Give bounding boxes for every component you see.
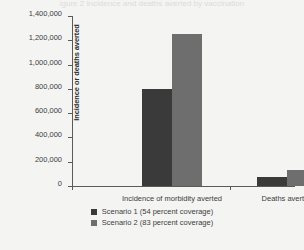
y-tick: 800,000 <box>0 89 72 90</box>
bar <box>257 177 287 186</box>
y-axis-title: Incidence or deaths averted <box>72 13 81 133</box>
y-tick-mark <box>68 89 72 90</box>
chart-legend: Scenario 1 (54 percent coverage)Scenario… <box>0 206 304 228</box>
y-tick-mark <box>68 65 72 66</box>
y-tick-mark <box>68 113 72 114</box>
y-tick-mark <box>68 137 72 138</box>
x-axis-line <box>72 186 295 187</box>
figure-container: igure 2 Incidence and deaths averted by … <box>0 0 304 250</box>
legend-label: Scenario 1 (54 percent coverage) <box>102 207 213 216</box>
y-tick: 0 <box>0 186 72 187</box>
legend-label: Scenario 2 (83 percent coverage) <box>102 218 213 227</box>
x-tick-mark <box>230 186 231 190</box>
y-tick-mark <box>68 40 72 41</box>
y-tick-label: 1,200,000 <box>29 34 62 42</box>
y-tick: 1,400,000 <box>0 16 72 17</box>
y-tick-label: 200,000 <box>35 156 62 164</box>
y-tick: 600,000 <box>0 113 72 114</box>
y-tick-mark <box>68 16 72 17</box>
y-tick-label: 400,000 <box>35 131 62 139</box>
legend-item[interactable]: Scenario 2 (83 percent coverage) <box>0 217 304 228</box>
x-axis-category-label: Deaths averted <box>217 194 304 203</box>
y-tick: 1,000,000 <box>0 65 72 66</box>
bar <box>287 170 304 186</box>
legend-swatch-icon <box>91 220 97 226</box>
y-tick-label: 1,400,000 <box>29 10 62 18</box>
legend-item[interactable]: Scenario 1 (54 percent coverage) <box>0 206 304 217</box>
y-tick-label: 0 <box>58 180 62 188</box>
y-tick-label: 800,000 <box>35 83 62 91</box>
bar <box>172 34 202 186</box>
x-tick-mark <box>72 186 73 190</box>
bar <box>142 89 172 186</box>
y-tick: 400,000 <box>0 137 72 138</box>
y-tick-mark <box>68 162 72 163</box>
y-tick: 1,200,000 <box>0 40 72 41</box>
figure-title-cutoff: igure 2 Incidence and deaths averted by … <box>0 0 304 8</box>
plot-area: Incidence or deaths averted 0200,000400,… <box>72 16 295 186</box>
y-tick-label: 1,000,000 <box>29 59 62 67</box>
legend-swatch-icon <box>91 209 97 215</box>
y-tick: 200,000 <box>0 162 72 163</box>
y-tick-label: 600,000 <box>35 107 62 115</box>
